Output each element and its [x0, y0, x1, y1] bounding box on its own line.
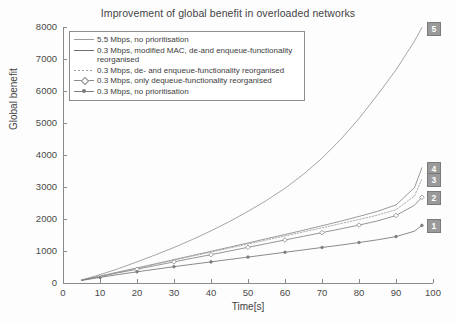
series-tag-1: 1 [427, 219, 441, 233]
chart-figure: Improvement of global benefit in overloa… [0, 0, 456, 325]
svg-text:60: 60 [280, 287, 291, 298]
svg-text:40: 40 [206, 287, 217, 298]
svg-text:3000: 3000 [36, 181, 57, 192]
series-tag-2: 2 [427, 191, 441, 205]
legend-swatch-dotted-icon [73, 66, 95, 76]
legend-item-label: 0.3 Mbps, modified MAC, de-and enqueue-f… [97, 46, 300, 65]
legend-swatch-diamond-icon [73, 76, 95, 86]
svg-text:7000: 7000 [36, 53, 57, 64]
legend-item[interactable]: 5.5 Mbps, no prioritisation [73, 35, 300, 45]
legend-item[interactable]: 0.3 Mbps, de- and enqueue-functionality … [73, 66, 300, 76]
legend-swatch-line-icon [73, 46, 95, 56]
svg-text:8000: 8000 [36, 21, 57, 32]
svg-text:100: 100 [425, 287, 441, 298]
svg-text:5000: 5000 [36, 117, 57, 128]
svg-text:90: 90 [391, 287, 402, 298]
legend-item-label: 0.3 Mbps, no prioritisation [97, 87, 300, 97]
legend-item[interactable]: 0.3 Mbps, only dequeue-functionality reo… [73, 76, 300, 86]
legend-item[interactable]: 0.3 Mbps, modified MAC, de-and enqueue-f… [73, 46, 300, 65]
legend-item-label: 0.3 Mbps, de- and enqueue-functionality … [97, 66, 300, 76]
svg-text:Time[s]: Time[s] [232, 301, 265, 312]
y-axis-title: Global benefit [8, 68, 19, 130]
legend-swatch-line-icon [73, 35, 95, 45]
legend-item[interactable]: 0.3 Mbps, no prioritisation [73, 87, 300, 97]
svg-text:10: 10 [95, 287, 106, 298]
svg-text:0: 0 [52, 277, 57, 288]
legend-swatch-dot-icon [73, 87, 95, 97]
svg-text:6000: 6000 [36, 85, 57, 96]
svg-text:80: 80 [354, 287, 365, 298]
svg-text:2000: 2000 [36, 213, 57, 224]
legend: 5.5 Mbps, no prioritisation 0.3 Mbps, mo… [69, 31, 305, 101]
svg-text:20: 20 [132, 287, 143, 298]
series-tag-5: 5 [427, 22, 441, 36]
svg-text:70: 70 [317, 287, 328, 298]
svg-text:0: 0 [60, 287, 65, 298]
series-tag-3: 3 [427, 173, 441, 187]
svg-text:50: 50 [243, 287, 254, 298]
svg-text:1000: 1000 [36, 245, 57, 256]
svg-text:30: 30 [169, 287, 180, 298]
svg-text:4000: 4000 [36, 149, 57, 160]
legend-item-label: 5.5 Mbps, no prioritisation [97, 35, 300, 45]
legend-item-label: 0.3 Mbps, only dequeue-functionality reo… [97, 76, 300, 86]
